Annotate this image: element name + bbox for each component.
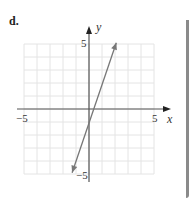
axes xyxy=(17,26,171,182)
x-min-tick-label: −5 xyxy=(16,112,28,124)
y-axis-arrow-icon xyxy=(86,26,92,34)
y-min-tick-label: −5 xyxy=(76,169,88,181)
series-line xyxy=(72,43,116,173)
y-axis-label: y xyxy=(96,20,101,35)
x-max-tick-label: 5 xyxy=(152,112,158,124)
x-axis-label: x xyxy=(167,112,172,127)
y-max-tick-label: 5 xyxy=(81,37,87,49)
right-border xyxy=(186,20,189,198)
plotted-line xyxy=(72,43,117,173)
